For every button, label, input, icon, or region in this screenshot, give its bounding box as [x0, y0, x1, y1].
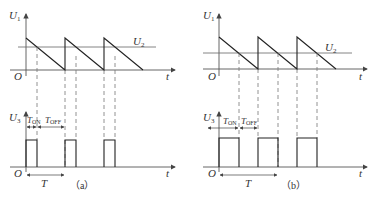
origin-bottom-a: O — [14, 167, 22, 179]
t-label-bottom-b: t — [359, 167, 363, 179]
origin-top-a: O — [14, 70, 22, 82]
pulse-b-1 — [219, 138, 239, 167]
u2-label-b: U2 — [325, 41, 337, 55]
pulse-a-3 — [104, 140, 115, 167]
pwm-diagram: U1 O t U2 U3 O t TON TOFF T （a） — [0, 0, 375, 197]
period-label-a: T — [41, 177, 48, 189]
u1-label-b: U1 — [203, 9, 215, 23]
toff-label-a: TOFF — [45, 115, 62, 125]
caption-a: （a） — [70, 180, 94, 191]
panel-b: U1 O t U2 U3 O t TON TOFF T （b） — [203, 9, 367, 191]
caption-b: （b） — [281, 180, 306, 191]
t-label-top-b: t — [359, 70, 363, 82]
origin-bottom-b: O — [208, 167, 216, 179]
sawtooth-u1-a — [26, 38, 143, 70]
t-label-bottom-a: t — [166, 167, 170, 179]
panel-a: U1 O t U2 U3 O t TON TOFF T （a） — [9, 9, 175, 191]
pulse-b-3 — [297, 138, 317, 167]
pulse-a-1 — [26, 140, 37, 167]
t-label-top-a: t — [166, 70, 170, 82]
pulse-b-2 — [258, 138, 278, 167]
origin-top-b: O — [208, 70, 216, 82]
u3-label-a: U3 — [9, 111, 21, 125]
u1-label-a: U1 — [9, 9, 21, 23]
pulse-a-2 — [65, 140, 76, 167]
u2-label-a: U2 — [133, 35, 145, 49]
toff-label-b: TOFF — [241, 116, 258, 126]
period-label-b: T — [245, 177, 252, 189]
ton-label-a: TON — [27, 115, 41, 125]
ton-label-b: TON — [223, 116, 237, 126]
u3-label-b: U3 — [203, 111, 215, 125]
